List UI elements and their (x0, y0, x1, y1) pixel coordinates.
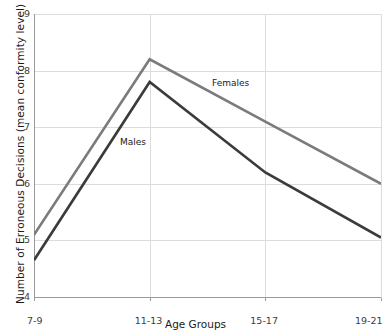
x-axis-line (34, 297, 382, 298)
plot-area: 456789 7-911-1315-1719-21 FemalesMales (34, 14, 381, 297)
plot-right-border (381, 14, 382, 298)
y-axis-tick-label: 5 (4, 234, 30, 245)
x-axis-title: Age Groups (0, 318, 391, 330)
y-axis-tick-label: 6 (4, 178, 30, 189)
series-line-males (34, 82, 381, 260)
y-axis-title: Number of Erroneous Decisions (mean conf… (14, 4, 26, 304)
series-label-females: Females (212, 78, 249, 88)
y-axis-tick-label: 7 (4, 121, 30, 132)
y-axis-tick-label: 8 (4, 65, 30, 76)
chart-title (0, 0, 391, 4)
line-chart: Number of Erroneous Decisions (mean conf… (0, 0, 391, 334)
y-axis-tick-label: 9 (4, 8, 30, 19)
y-axis-tick-label: 4 (4, 291, 30, 302)
series-label-males: Males (120, 137, 146, 147)
series-lines (34, 14, 381, 297)
